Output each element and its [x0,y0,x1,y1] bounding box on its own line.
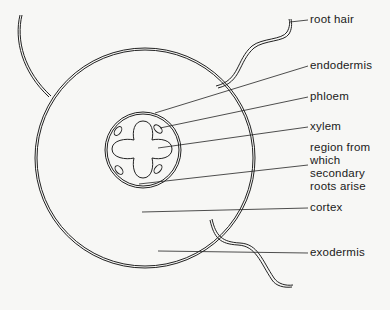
root-hair-top-right [216,19,292,88]
label-region-line-4: roots arise [310,180,366,193]
label-exodermis: exodermis [310,246,365,259]
label-region-line-3: secondary [310,167,365,180]
root-hair-bottom-right [210,219,293,287]
leader-root-hair [290,20,308,22]
leader-region [139,165,308,184]
root-hair-left [18,15,51,97]
xylem-cross [112,121,172,178]
exodermis-ring [35,48,255,268]
label-root-hair: root hair [310,13,354,26]
label-region-line-2: which [310,154,340,167]
leader-cortex [142,208,308,212]
leader-phloem [160,97,308,128]
label-region-line-1: region from [310,141,370,154]
leader-lines [139,20,308,253]
label-endodermis: endodermis [310,59,372,72]
label-xylem: xylem [310,120,341,133]
leader-xylem [158,127,308,148]
leader-endodermis [155,66,308,113]
phloem-patches [113,123,164,175]
label-cortex: cortex [310,201,343,214]
label-phloem: phloem [310,90,349,103]
endodermis-ring [105,112,181,188]
leader-exodermis [158,251,308,253]
